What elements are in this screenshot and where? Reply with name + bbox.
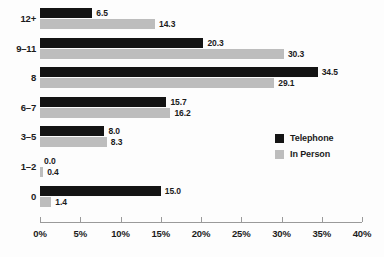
bar-value-label: 34.5 xyxy=(322,67,338,77)
bar-value-label: 1.4 xyxy=(55,197,67,207)
legend-swatch-in-person xyxy=(275,150,284,159)
category-label: 1–2 xyxy=(0,156,36,178)
bar-value-label: 8.0 xyxy=(108,126,120,136)
bar-in-person xyxy=(40,108,170,118)
legend-label-in-person: In Person xyxy=(290,149,330,159)
x-tick-label: 35% xyxy=(313,228,331,239)
legend-label-telephone: Telephone xyxy=(290,133,333,143)
bar-in-person xyxy=(40,19,155,29)
category-label: 12+ xyxy=(0,8,36,30)
bar-value-label: 20.3 xyxy=(207,38,223,48)
category-label: 6–7 xyxy=(0,97,36,119)
bar-value-label: 15.7 xyxy=(170,97,186,107)
bar-value-label: 8.3 xyxy=(111,137,123,147)
bar-value-label: 29.1 xyxy=(278,78,294,88)
bar-in-person xyxy=(40,197,51,207)
bar-chart: 12+9–1186–73–51–20 6.514.320.330.334.529… xyxy=(0,0,384,257)
x-tick xyxy=(322,217,323,222)
category-label: 8 xyxy=(0,67,36,89)
bar-value-label: 6.5 xyxy=(96,8,108,18)
bar-row: 15.01.4 xyxy=(40,186,362,208)
bar-telephone xyxy=(40,186,161,196)
bar-row: 20.330.3 xyxy=(40,38,362,60)
bar-in-person xyxy=(40,167,43,177)
legend-item-telephone: Telephone xyxy=(275,130,333,146)
x-tick xyxy=(161,217,162,222)
x-tick-label: 20% xyxy=(192,228,210,239)
x-tick xyxy=(201,217,202,222)
bar-in-person xyxy=(40,78,274,88)
bar-in-person xyxy=(40,49,284,59)
bar-value-label: 15.0 xyxy=(165,186,181,196)
bar-value-label: 30.3 xyxy=(288,49,304,59)
x-tick xyxy=(282,217,283,222)
x-axis-line xyxy=(40,222,362,223)
x-tick-label: 15% xyxy=(152,228,170,239)
bar-row: 6.514.3 xyxy=(40,8,362,30)
bar-telephone xyxy=(40,8,92,18)
legend-swatch-telephone xyxy=(275,134,284,143)
x-tick xyxy=(241,217,242,222)
x-tick-label: 40% xyxy=(353,228,371,239)
category-label: 9–11 xyxy=(0,38,36,60)
x-tick xyxy=(40,217,41,222)
x-tick-label: 25% xyxy=(232,228,250,239)
x-tick-label: 5% xyxy=(74,228,87,239)
x-tick-label: 0% xyxy=(33,228,46,239)
x-tick-label: 30% xyxy=(272,228,290,239)
bar-value-label: 16.2 xyxy=(174,108,190,118)
x-tick xyxy=(362,217,363,222)
bar-telephone xyxy=(40,97,166,107)
bar-row: 15.716.2 xyxy=(40,97,362,119)
bar-telephone xyxy=(40,38,203,48)
x-tick xyxy=(121,217,122,222)
bar-telephone xyxy=(40,67,318,77)
chart-legend: Telephone In Person xyxy=(275,130,333,162)
x-tick xyxy=(80,217,81,222)
legend-item-in-person: In Person xyxy=(275,146,333,162)
category-label: 0 xyxy=(0,186,36,208)
bar-in-person xyxy=(40,137,107,147)
bar-value-label: 14.3 xyxy=(159,19,175,29)
bar-telephone xyxy=(40,126,104,136)
x-tick-label: 10% xyxy=(111,228,129,239)
category-label: 3–5 xyxy=(0,126,36,148)
bar-row: 34.529.1 xyxy=(40,67,362,89)
bar-value-label: 0.0 xyxy=(44,156,56,166)
bar-value-label: 0.4 xyxy=(47,167,59,177)
